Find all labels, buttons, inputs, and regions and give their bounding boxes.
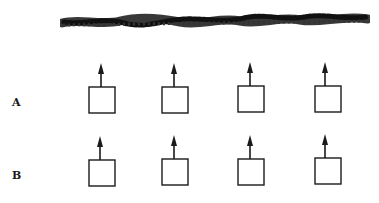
arrow-up-icon xyxy=(171,135,177,159)
redacted-title-scribble xyxy=(60,12,370,30)
scribble-icon xyxy=(60,12,370,30)
row-label-a: A xyxy=(12,96,21,109)
row-b-unit-1 xyxy=(87,134,117,186)
square-box xyxy=(238,159,264,185)
arrow-up-icon xyxy=(171,63,177,87)
square-box xyxy=(162,159,188,185)
row-a-unit-2 xyxy=(160,61,190,113)
square-box xyxy=(238,86,264,112)
row-a-unit-3 xyxy=(236,60,266,112)
row-a-unit-4 xyxy=(313,60,343,112)
square-box xyxy=(162,87,188,113)
row-b-unit-3 xyxy=(236,133,266,185)
row-a-unit-1 xyxy=(87,61,117,113)
arrow-up-icon xyxy=(322,62,328,86)
row-label-b: B xyxy=(12,169,21,182)
square-box xyxy=(89,87,115,113)
row-b-unit-4 xyxy=(313,132,343,184)
arrow-up-icon xyxy=(247,135,253,159)
arrow-up-icon xyxy=(322,134,328,158)
arrow-up-icon xyxy=(98,63,104,87)
row-b-unit-2 xyxy=(160,133,190,185)
square-box xyxy=(315,158,341,184)
square-box xyxy=(89,160,115,186)
arrow-up-icon xyxy=(97,136,103,160)
square-box xyxy=(315,86,341,112)
arrow-up-icon xyxy=(247,62,253,86)
